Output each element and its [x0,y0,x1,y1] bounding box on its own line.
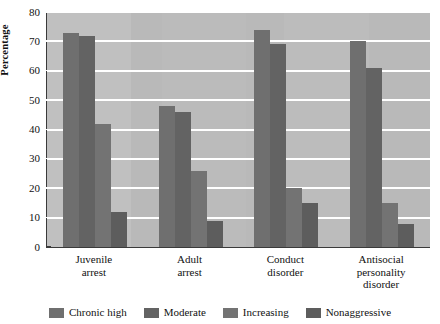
y-axis-tick-mark [46,187,51,189]
bar-group [254,30,318,247]
y-axis-tick-label: 80 [14,7,40,18]
y-axis-tick-label: 70 [14,36,40,47]
bar [63,33,79,247]
legend-item: Chronic high [49,307,127,318]
y-axis-tick-label: 40 [14,124,40,135]
legend-label: Moderate [164,307,206,318]
y-axis-tick-mark [46,217,51,219]
plot-area [46,12,430,248]
y-axis-tick-mark [46,70,51,72]
bar [191,171,207,247]
legend-label: Increasing [243,307,289,318]
y-axis-tick-mark [46,129,51,131]
y-axis-tick-label: 10 [14,212,40,223]
y-axis-title: Percentage [0,5,10,95]
gridline [47,12,430,13]
legend-swatch-icon [49,308,64,318]
y-axis-tick-mark [46,40,51,42]
legend-item: Nonaggressive [306,307,391,318]
legend-label: Nonaggressive [326,307,391,318]
legend-swatch-icon [223,308,238,318]
bar [398,224,414,248]
bar [159,106,175,247]
bar [207,221,223,247]
y-axis-tick-label: 30 [14,153,40,164]
legend-label: Chronic high [69,307,127,318]
bar-group [350,41,414,247]
bar [95,124,111,247]
y-axis-tick-mark [46,11,51,13]
bar-group [63,33,127,247]
plot-inner [47,12,430,247]
x-axis-category-label: Adult arrest [142,253,238,278]
y-axis-tick-mark [46,99,51,101]
bar [366,68,382,247]
legend: Chronic highModerateIncreasingNonaggress… [0,307,440,318]
y-axis-tick-mark [46,246,51,248]
y-axis-tick-label: 0 [14,242,40,253]
x-axis-category-label: Conduct disorder [238,253,334,278]
legend-swatch-icon [144,308,159,318]
bar-chart: Percentage 01020304050607080 Juvenile ar… [0,0,440,324]
y-axis-tick-label: 50 [14,95,40,106]
legend-swatch-icon [306,308,321,318]
x-axis-category-label: Juvenile arrest [46,253,142,278]
y-axis-tick-mark [46,158,51,160]
bar [79,36,95,248]
bar-group [159,106,223,247]
x-axis-category-label: Antisocial personality disorder [333,253,429,291]
y-axis-tick-label: 20 [14,183,40,194]
legend-item: Moderate [144,307,206,318]
bar [286,188,302,247]
bar [350,41,366,247]
bar [175,112,191,247]
bar [270,44,286,247]
legend-item: Increasing [223,307,289,318]
bar [254,30,270,247]
bar [382,203,398,247]
y-axis-tick-label: 60 [14,65,40,76]
bar [302,203,318,247]
bar [111,212,127,247]
